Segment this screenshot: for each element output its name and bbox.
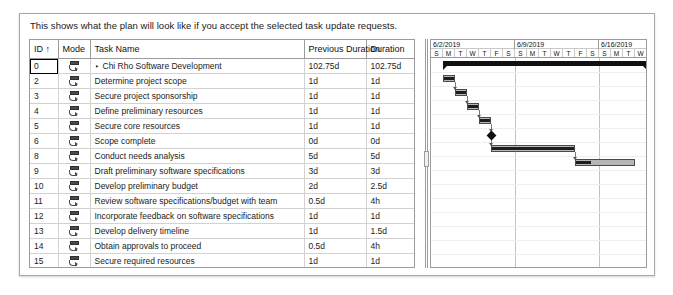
cell-previous-duration[interactable]: 5d — [304, 149, 366, 164]
cell-mode[interactable] — [58, 224, 90, 239]
table-row[interactable]: 15Secure required resources1d1d — [30, 254, 414, 269]
cell-id[interactable]: 9 — [30, 164, 58, 179]
cell-duration[interactable]: 0d — [366, 134, 414, 149]
gantt-task-bar[interactable] — [479, 117, 491, 124]
cell-previous-duration[interactable]: 1d — [304, 209, 366, 224]
cell-task-name[interactable]: Develop delivery timeline — [90, 224, 304, 239]
cell-task-name[interactable]: Obtain approvals to proceed — [90, 239, 304, 254]
gantt-milestone-marker[interactable] — [486, 130, 496, 140]
cell-mode[interactable] — [58, 134, 90, 149]
cell-duration[interactable]: 1d — [366, 104, 414, 119]
cell-duration[interactable]: 1d — [366, 254, 414, 269]
table-row[interactable]: 13Develop delivery timeline1d1.5d — [30, 224, 414, 239]
cell-duration[interactable]: 3d — [366, 164, 414, 179]
cell-task-name[interactable]: Conduct needs analysis — [90, 149, 304, 164]
cell-id[interactable]: 14 — [30, 239, 58, 254]
cell-previous-duration[interactable]: 2d — [304, 179, 366, 194]
table-row[interactable]: 3Secure project sponsorship1d1d — [30, 89, 414, 104]
cell-previous-duration[interactable]: 0d — [304, 134, 366, 149]
cell-task-name[interactable]: Develop preliminary budget — [90, 179, 304, 194]
column-header-previous-duration[interactable]: Previous Duration — [304, 40, 366, 59]
cell-mode[interactable] — [58, 74, 90, 89]
gantt-task-bar[interactable] — [443, 75, 455, 82]
gantt-task-bar[interactable] — [467, 103, 479, 110]
cell-mode[interactable] — [58, 254, 90, 269]
cell-task-name[interactable]: Incorporate feedback on software specifi… — [90, 209, 304, 224]
table-row[interactable]: 10Develop preliminary budget2d2.5d — [30, 179, 414, 194]
table-row[interactable]: 2Determine project scope1d1d — [30, 74, 414, 89]
gantt-chart-pane[interactable]: 6/2/2019SMTWTFS6/9/2019SMTWTFS6/16/2019S… — [430, 39, 647, 268]
cell-id[interactable]: 5 — [30, 119, 58, 134]
cell-duration[interactable]: 1d — [366, 209, 414, 224]
cell-id[interactable]: 12 — [30, 209, 58, 224]
cell-mode[interactable] — [58, 239, 90, 254]
cell-duration[interactable]: 102.75d — [366, 59, 414, 74]
cell-id[interactable]: 8 — [30, 149, 58, 164]
cell-previous-duration[interactable]: 1d — [304, 119, 366, 134]
table-row[interactable]: 12Incorporate feedback on software speci… — [30, 209, 414, 224]
cell-duration[interactable]: 1d — [366, 74, 414, 89]
cell-id[interactable]: 13 — [30, 224, 58, 239]
cell-mode[interactable] — [58, 149, 90, 164]
cell-mode[interactable] — [58, 164, 90, 179]
splitter-grip[interactable] — [424, 151, 429, 167]
cell-id[interactable]: 3 — [30, 89, 58, 104]
cell-task-name[interactable]: Secure project sponsorship — [90, 89, 304, 104]
cell-task-name[interactable]: Scope complete — [90, 134, 304, 149]
cell-id[interactable]: 6 — [30, 134, 58, 149]
cell-task-name[interactable]: Secure core resources — [90, 119, 304, 134]
cell-task-name[interactable]: Define preliminary resources — [90, 104, 304, 119]
table-row[interactable]: 11Review software specifications/budget … — [30, 194, 414, 209]
task-grid-pane[interactable]: ID ↑ Mode Task Name Previous Duration Du… — [29, 39, 415, 268]
cell-mode[interactable] — [58, 194, 90, 209]
cell-mode[interactable] — [58, 209, 90, 224]
cell-mode[interactable] — [58, 89, 90, 104]
cell-duration[interactable]: 4h — [366, 194, 414, 209]
cell-previous-duration[interactable]: 1d — [304, 224, 366, 239]
cell-duration[interactable]: 1.5d — [366, 224, 414, 239]
cell-previous-duration[interactable]: 102.75d — [304, 59, 366, 74]
table-row[interactable]: 0‣Chi Rho Software Development102.75d102… — [30, 59, 414, 74]
cell-id[interactable]: 0 — [30, 59, 58, 74]
gantt-task-bar[interactable] — [455, 89, 467, 96]
table-row[interactable]: 9Draft preliminary software specificatio… — [30, 164, 414, 179]
table-row[interactable]: 5Secure core resources1d1d — [30, 119, 414, 134]
table-row[interactable]: 4Define preliminary resources1d1d — [30, 104, 414, 119]
cell-task-name[interactable]: Draft preliminary software specification… — [90, 164, 304, 179]
cell-previous-duration[interactable]: 1d — [304, 104, 366, 119]
cell-id[interactable]: 11 — [30, 194, 58, 209]
cell-mode[interactable] — [58, 179, 90, 194]
cell-duration[interactable]: 5d — [366, 149, 414, 164]
cell-mode[interactable] — [58, 59, 90, 74]
table-row[interactable]: 14Obtain approvals to proceed0.5d4h — [30, 239, 414, 254]
cell-mode[interactable] — [58, 104, 90, 119]
gantt-task-bar[interactable] — [491, 145, 575, 152]
cell-duration[interactable]: 1d — [366, 89, 414, 104]
column-header-id[interactable]: ID ↑ — [30, 40, 58, 59]
gantt-summary-bar[interactable] — [443, 61, 646, 66]
cell-previous-duration[interactable]: 0.5d — [304, 194, 366, 209]
cell-id[interactable]: 2 — [30, 74, 58, 89]
cell-previous-duration[interactable]: 0.5d — [304, 239, 366, 254]
cell-id[interactable]: 10 — [30, 179, 58, 194]
cell-previous-duration[interactable]: 3d — [304, 164, 366, 179]
cell-duration[interactable]: 2.5d — [366, 179, 414, 194]
cell-task-name[interactable]: Determine project scope — [90, 74, 304, 89]
cell-task-name[interactable]: Review software specifications/budget wi… — [90, 194, 304, 209]
table-row[interactable]: 6Scope complete0d0d — [30, 134, 414, 149]
column-header-duration[interactable]: Duration — [366, 40, 414, 59]
table-row[interactable]: 8Conduct needs analysis5d5d — [30, 149, 414, 164]
cell-id[interactable]: 15 — [30, 254, 58, 269]
column-header-mode[interactable]: Mode — [58, 40, 90, 59]
cell-mode[interactable] — [58, 119, 90, 134]
gantt-task-bar[interactable] — [575, 159, 635, 166]
column-header-taskname[interactable]: Task Name — [90, 40, 304, 59]
cell-previous-duration[interactable]: 1d — [304, 89, 366, 104]
cell-task-name[interactable]: Secure required resources — [90, 254, 304, 269]
cell-previous-duration[interactable]: 1d — [304, 74, 366, 89]
gantt-chart-body[interactable] — [431, 58, 646, 267]
cell-duration[interactable]: 4h — [366, 239, 414, 254]
expander-icon[interactable]: ‣ — [95, 63, 103, 70]
cell-task-name[interactable]: ‣Chi Rho Software Development — [90, 59, 304, 74]
cell-id[interactable]: 4 — [30, 104, 58, 119]
